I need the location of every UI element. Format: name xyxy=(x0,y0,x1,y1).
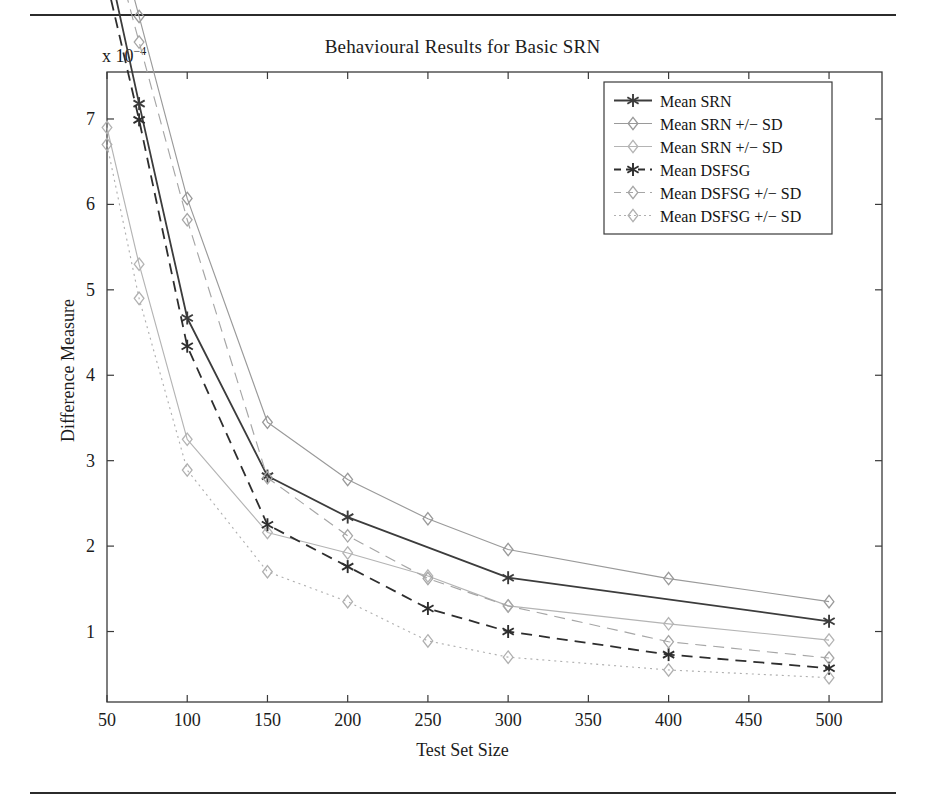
y-tick-label: 3 xyxy=(86,451,95,471)
x-tick-label: 100 xyxy=(174,710,201,730)
legend-label: Mean SRN xyxy=(660,93,732,110)
legend-label: Mean SRN +/− SD xyxy=(660,139,783,156)
y-tick-label: 7 xyxy=(86,109,95,129)
legend-label: Mean SRN +/− SD xyxy=(660,116,783,133)
figure-container: Behavioural Results for Basic SRN x 10−4… xyxy=(0,0,925,808)
data-point-marker xyxy=(182,464,192,476)
data-point-marker xyxy=(423,635,433,647)
legend-label: Mean DSFSG xyxy=(660,162,751,179)
x-tick-label: 50 xyxy=(98,710,116,730)
legend-label: Mean DSFSG +/− SD xyxy=(660,185,801,202)
y-tick-label: 2 xyxy=(86,536,95,556)
x-tick-label: 250 xyxy=(414,710,441,730)
x-tick-label: 300 xyxy=(495,710,522,730)
plot-area: 501001502002503003504004505001234567 Mea… xyxy=(0,0,925,808)
y-tick-label: 4 xyxy=(86,365,95,385)
data-point-marker xyxy=(343,530,353,542)
y-tick-label: 6 xyxy=(86,194,95,214)
y-tick-label: 5 xyxy=(86,280,95,300)
x-tick-label: 200 xyxy=(334,710,361,730)
x-tick-label: 350 xyxy=(575,710,602,730)
data-point-marker xyxy=(343,595,353,607)
x-tick-label: 450 xyxy=(735,710,762,730)
x-tick-label: 400 xyxy=(655,710,682,730)
legend-box[interactable]: Mean SRNMean SRN +/− SDMean SRN +/− SDMe… xyxy=(604,82,832,234)
x-tick-label: 500 xyxy=(816,710,843,730)
legend-label: Mean DSFSG +/− SD xyxy=(660,208,801,225)
x-tick-label: 150 xyxy=(254,710,281,730)
y-tick-label: 1 xyxy=(86,622,95,642)
data-point-marker xyxy=(134,36,144,48)
data-point-marker xyxy=(263,566,273,578)
